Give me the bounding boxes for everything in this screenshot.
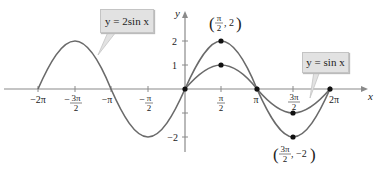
- point-3pi-over-2-neg1: [290, 110, 295, 115]
- svg-text:2: 2: [217, 23, 222, 33]
- svg-text:(: (: [209, 14, 215, 33]
- svg-text:): ): [236, 14, 242, 33]
- svg-text:2: 2: [283, 154, 288, 164]
- point-pi-over-2-1: [218, 62, 223, 67]
- sine-graph: x y −2π − 3π 2 −π − π 2 π 2 π: [0, 0, 380, 170]
- svg-text:π: π: [147, 93, 152, 103]
- tick-label-2pi: 2π: [329, 94, 339, 105]
- svg-text:2: 2: [147, 103, 152, 113]
- callout-2sin-pointer: [98, 32, 116, 55]
- svg-text:, −2: , −2: [291, 148, 307, 159]
- tick-label-neg-pi: −π: [102, 94, 113, 105]
- tick-label-pi-over-2: π 2: [217, 93, 225, 113]
- x-axis-arrow-icon: [361, 86, 368, 92]
- point-pi-over-2-2: [218, 38, 223, 43]
- tick-label-neg-2pi: −2π: [30, 94, 46, 105]
- svg-text:, 2: , 2: [224, 17, 234, 28]
- svg-text:π: π: [219, 93, 224, 103]
- callout-sin-text: y = sin x: [306, 56, 344, 68]
- callout-label-sin-x: y = sin x: [302, 52, 349, 73]
- svg-text:−: −: [139, 94, 145, 105]
- point-2pi-0: [327, 86, 332, 91]
- svg-text:2: 2: [219, 103, 224, 113]
- point-origin: [182, 86, 187, 91]
- svg-text:3π: 3π: [289, 92, 299, 102]
- annotation-max-point: ( π 2 , 2 ): [209, 13, 242, 33]
- svg-text:2: 2: [74, 103, 79, 113]
- tick-label-3pi-over-2: 3π 2: [288, 92, 300, 112]
- y-axis-arrow-icon: [182, 11, 188, 18]
- callout-2sin-text: y = 2sin x: [105, 15, 149, 27]
- tick-label-neg-pi-over-2: − π 2: [139, 93, 153, 113]
- svg-text:): ): [310, 145, 316, 164]
- svg-text:π: π: [217, 13, 222, 23]
- ytick-label-neg2: −2: [167, 132, 178, 143]
- svg-text:(: (: [273, 145, 279, 164]
- point-3pi-over-2-neg2: [290, 134, 295, 139]
- point-pi-0: [254, 86, 259, 91]
- ytick-label-1: 1: [172, 60, 177, 71]
- y-axis-label: y: [174, 7, 180, 19]
- svg-text:3π: 3π: [280, 144, 290, 154]
- svg-text:−: −: [64, 94, 70, 105]
- tick-label-pi: π: [253, 94, 258, 105]
- x-axis-label: x: [367, 90, 373, 102]
- callout-sin-pointer: [310, 71, 320, 98]
- annotation-min-point: ( 3π 2 , −2 ): [273, 144, 316, 164]
- tick-label-neg-3pi-over-2: − 3π 2: [64, 93, 82, 113]
- callout-label-2sin-x: y = 2sin x: [100, 9, 154, 33]
- ytick-label-2: 2: [172, 36, 177, 47]
- svg-text:3π: 3π: [71, 93, 81, 103]
